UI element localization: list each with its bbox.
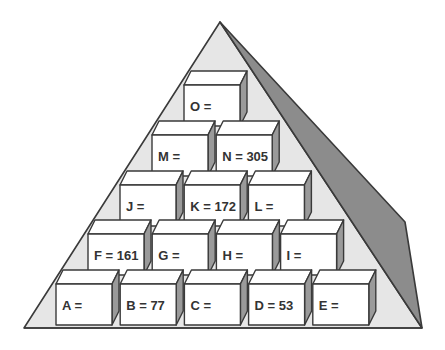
block-label: H =	[222, 248, 243, 263]
block-top-face	[248, 171, 311, 185]
block-top-face	[281, 220, 344, 234]
block-h: H =	[216, 220, 279, 275]
pyramid-diagram: O =M =N = 305J =K = 172L =F = 161G =H =I…	[0, 0, 445, 350]
block-d: D = 53	[249, 270, 312, 325]
block-top-face	[152, 121, 215, 135]
block-a: A =	[56, 270, 119, 325]
block-top-face	[120, 171, 183, 185]
block-top-face	[184, 270, 247, 284]
block-top-face	[152, 220, 215, 234]
block-e: E =	[313, 270, 376, 325]
block-c: C =	[184, 270, 247, 325]
block-label: A =	[62, 298, 83, 313]
block-l: L =	[248, 171, 311, 226]
block-i: I =	[281, 220, 344, 275]
block-top-face	[184, 71, 247, 85]
block-label: L =	[254, 199, 273, 214]
block-label: J =	[126, 199, 145, 214]
block-top-face	[313, 270, 376, 284]
block-top-face	[184, 171, 247, 185]
block-f: F = 161	[88, 220, 151, 275]
block-g: G =	[152, 220, 215, 275]
block-label: C =	[190, 298, 211, 313]
block-o: O =	[184, 71, 247, 126]
block-label: B = 77	[126, 298, 165, 313]
block-j: J =	[120, 171, 183, 226]
block-label: F = 161	[94, 248, 138, 263]
block-label: N = 305	[222, 149, 268, 164]
block-label: M =	[158, 149, 180, 164]
block-top-face	[216, 121, 279, 135]
block-n: N = 305	[216, 121, 279, 176]
block-top-face	[216, 220, 279, 234]
block-label: E =	[319, 298, 339, 313]
block-label: O =	[190, 99, 212, 114]
block-label: D = 53	[255, 298, 294, 313]
block-top-face	[88, 220, 151, 234]
block-top-face	[249, 270, 312, 284]
block-top-face	[56, 270, 119, 284]
block-b: B = 77	[120, 270, 183, 325]
block-label: K = 172	[190, 199, 236, 214]
block-label: I =	[287, 248, 302, 263]
block-m: M =	[152, 121, 215, 176]
block-k: K = 172	[184, 171, 247, 226]
block-top-face	[120, 270, 183, 284]
block-label: G =	[158, 248, 180, 263]
